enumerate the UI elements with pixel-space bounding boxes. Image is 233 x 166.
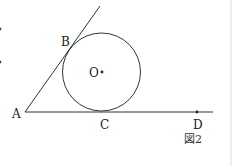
edge-mark	[0, 28, 1, 31]
label-c: C	[100, 118, 109, 132]
point-d-dot	[196, 111, 199, 114]
label-b: B	[61, 35, 70, 49]
line-ab	[25, 6, 100, 112]
label-d: D	[193, 118, 203, 132]
center-point-o	[101, 71, 104, 74]
edge-mark	[0, 61, 1, 64]
label-o: O	[89, 66, 99, 80]
figure-caption: 図2	[184, 133, 202, 146]
geometry-canvas: A B C D O 図2	[0, 0, 233, 166]
label-a: A	[11, 107, 21, 121]
figure-2-diagram: A B C D O 図2	[0, 0, 233, 166]
